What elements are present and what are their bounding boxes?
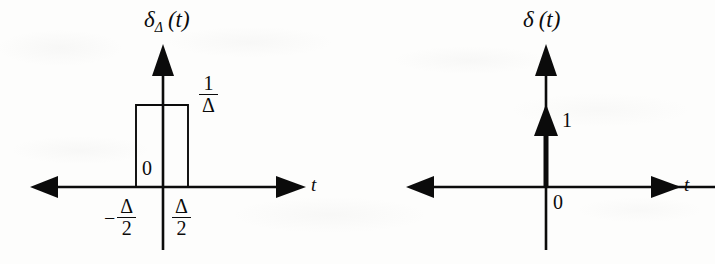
t-axis-label-right: t — [684, 175, 689, 194]
t-axis-left-arrowhead-icon — [30, 176, 58, 198]
vertical-axis-up-arrowhead-icon — [152, 44, 174, 76]
fraction-denominator: 2 — [117, 217, 136, 239]
fraction-denominator: 2 — [172, 217, 191, 239]
origin-label-right: 0 — [553, 192, 563, 212]
fraction-numerator: Δ — [117, 196, 136, 217]
impulse-weight-label: 1 — [562, 110, 572, 130]
plot-title-delta-ideal: δ(t) — [523, 8, 560, 31]
left-edge-tick-label: − Δ 2 — [104, 196, 136, 239]
fraction-denominator: Δ — [199, 94, 218, 116]
plot-delta-approx: δΔ(t) 1 Δ 0 t − Δ 2 Δ — [0, 0, 357, 264]
plot-title-delta-approx: δΔ(t) — [144, 8, 190, 31]
t-axis-label-left: t — [311, 175, 316, 194]
right-edge-tick-label: Δ 2 — [172, 196, 191, 239]
title-delta-symbol: δ — [523, 7, 534, 32]
vertical-axis-up-arrowhead-icon — [535, 44, 557, 76]
figure-root: δΔ(t) 1 Δ 0 t − Δ 2 Δ — [0, 0, 715, 264]
delta-over-two-fraction-right: Δ 2 — [172, 196, 191, 239]
pulse-height-label: 1 Δ — [199, 73, 218, 116]
t-axis-right-arrowhead-icon — [276, 176, 306, 198]
delta-over-two-fraction-left: Δ 2 — [117, 196, 136, 239]
one-over-delta-fraction: 1 Δ — [199, 73, 218, 116]
delta-ideal-axes-svg — [357, 0, 715, 264]
plot-delta-ideal: δ(t) 1 0 t — [357, 0, 715, 264]
t-axis-right-arrowhead-icon — [651, 176, 681, 198]
title-delta-argument: (t) — [539, 7, 561, 32]
impulse-arrowhead-icon — [534, 104, 558, 136]
fraction-numerator: 1 — [199, 73, 218, 94]
t-axis-left-arrowhead-icon — [406, 176, 434, 198]
title-delta-argument: (t) — [168, 7, 190, 32]
fraction-numerator: Δ — [172, 196, 191, 217]
title-delta-symbol: δ — [144, 7, 155, 32]
origin-label-left: 0 — [142, 158, 152, 178]
title-delta-subscript: Δ — [155, 20, 163, 35]
minus-sign: − — [104, 208, 115, 228]
